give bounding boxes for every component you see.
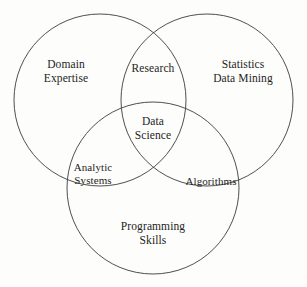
- label-programming-skills: Programming Skills: [121, 220, 185, 247]
- statistics-data-mining-circle: [121, 14, 293, 186]
- venn-diagram-figure: Domain Expertise Statistics Data Mining …: [0, 0, 307, 287]
- label-analytic-systems: Analytic Systems: [74, 161, 113, 187]
- label-algorithms: Algorithms: [185, 175, 236, 188]
- label-research: Research: [132, 62, 175, 76]
- label-data-science: Data Science: [135, 115, 171, 142]
- label-domain-expertise: Domain Expertise: [44, 58, 88, 85]
- label-statistics-data-mining: Statistics Data Mining: [213, 58, 273, 85]
